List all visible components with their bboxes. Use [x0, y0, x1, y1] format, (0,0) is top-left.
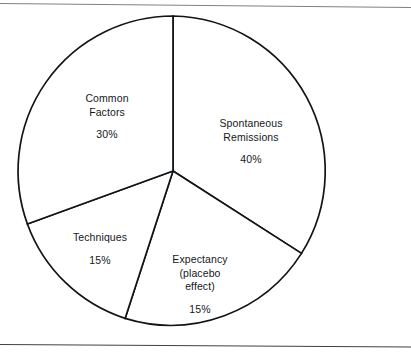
- spontaneous-remissions-line-2: Remissions: [223, 131, 278, 143]
- slice-label-techniques: Techniques 15%: [48, 231, 152, 267]
- expectancy-percent: 15%: [150, 303, 250, 317]
- common-factors-percent: 30%: [55, 128, 159, 142]
- expectancy-line-2: (placebo: [179, 267, 220, 279]
- common-factors-line-1: Common: [85, 92, 128, 104]
- spontaneous-remissions-percent: 40%: [190, 153, 312, 167]
- common-factors-line-2: Factors: [89, 106, 125, 118]
- techniques-percent: 15%: [48, 254, 152, 268]
- expectancy-line-3: effect): [185, 280, 215, 292]
- slice-label-expectancy: Expectancy (placebo effect) 15%: [150, 253, 250, 316]
- spontaneous-remissions-line-1: Spontaneous: [220, 117, 283, 129]
- slice-label-spontaneous-remissions: Spontaneous Remissions 40%: [190, 117, 312, 167]
- slice-label-common-factors: Common Factors 30%: [55, 92, 159, 142]
- techniques-line-1: Techniques: [73, 231, 127, 243]
- expectancy-line-1: Expectancy: [172, 253, 227, 265]
- pie-chart-page: Common Factors 30% Spontaneous Remission…: [0, 0, 411, 352]
